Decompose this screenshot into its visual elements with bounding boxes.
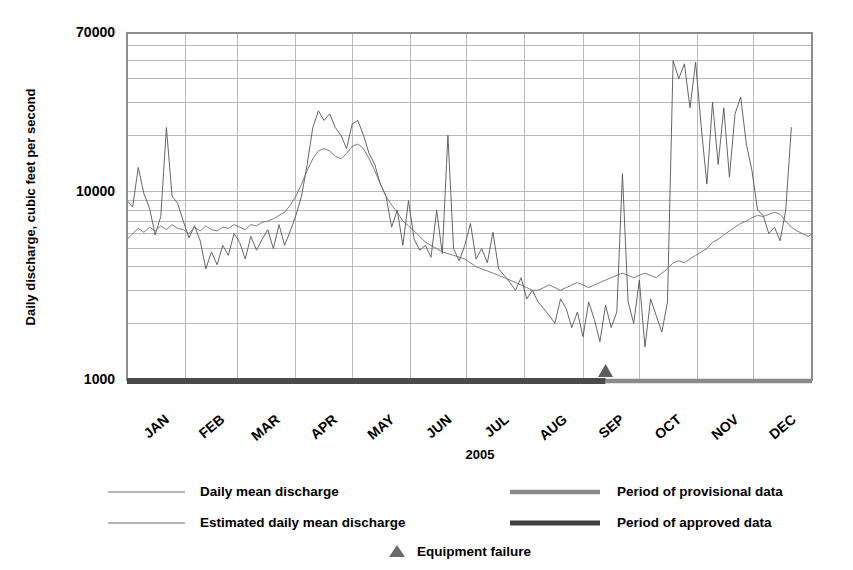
period-bar-approved: [127, 378, 606, 384]
y-axis-title-text: Daily discharge, cubic feet per second: [23, 88, 38, 325]
y-axis-title: Daily discharge, cubic feet per second: [23, 88, 38, 325]
hydrograph-figure: Daily discharge, cubic feet per second 7…: [0, 0, 853, 570]
data-period-bars: [127, 378, 812, 384]
x-axis-title-text: 2005: [466, 447, 495, 462]
y-tick-label-70000: 70000: [76, 24, 115, 40]
legend-label-provisional: Period of provisional data: [617, 484, 783, 499]
chart-canvas: Daily discharge, cubic feet per second 7…: [0, 0, 853, 570]
period-bar-provisional: [606, 379, 812, 384]
legend-label-estimated-daily-mean: Estimated daily mean discharge: [200, 515, 406, 530]
y-tick-label-10000: 10000: [76, 183, 115, 199]
legend-label-approved: Period of approved data: [617, 515, 772, 530]
y-tick-label-1000: 1000: [84, 371, 115, 387]
legend-label-daily-mean: Daily mean discharge: [200, 484, 339, 499]
legend-label-equipment-failure: Equipment failure: [417, 544, 532, 559]
